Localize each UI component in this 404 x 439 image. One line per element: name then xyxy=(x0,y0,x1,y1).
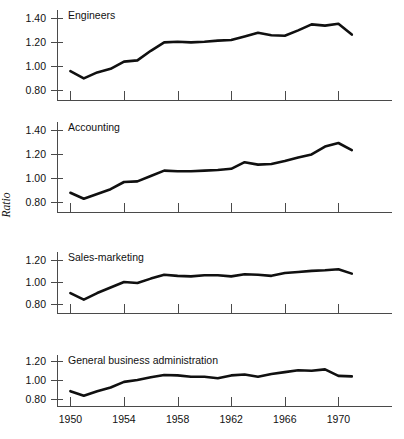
x-tick-label: 1970 xyxy=(327,413,351,425)
axis-lines xyxy=(58,10,393,101)
y-axis-title-ratio: Ratio xyxy=(0,192,12,218)
y-tick-label: 1.20 xyxy=(26,355,47,367)
panel-title-accounting: Accounting xyxy=(68,121,120,133)
y-tick-label: 0.80 xyxy=(26,84,47,96)
y-tick-label: 0.80 xyxy=(26,393,47,405)
y-tick-label: 1.20 xyxy=(26,254,47,266)
y-tick-label: 1.40 xyxy=(26,124,47,136)
y-tick-label: 1.00 xyxy=(26,374,47,386)
chart-figure: Ratio 0.801.001.201.40Engineers0.801.001… xyxy=(0,0,404,439)
panel-title-sales-marketing: Sales-marketing xyxy=(68,251,144,263)
y-tick-label: 1.20 xyxy=(26,148,47,160)
y-tick-label: 1.20 xyxy=(26,36,47,48)
panel-title-engineers: Engineers xyxy=(68,9,115,21)
panel-engineers: 0.801.001.201.40Engineers xyxy=(26,9,392,101)
y-tick-label: 0.80 xyxy=(26,196,47,208)
y-tick-label: 1.00 xyxy=(26,60,47,72)
data-series-engineers xyxy=(70,24,351,79)
y-tick-label: 0.80 xyxy=(26,298,47,310)
data-series-sales-marketing xyxy=(70,269,351,300)
x-tick-label: 1966 xyxy=(273,413,297,425)
data-series-accounting xyxy=(70,143,351,199)
x-tick-label: 1950 xyxy=(59,413,83,425)
panel-title-general-business-administration: General business administration xyxy=(68,354,218,366)
y-tick-label: 1.40 xyxy=(26,12,47,24)
axis-lines xyxy=(58,122,393,213)
x-tick-label: 1958 xyxy=(166,413,190,425)
data-series-general-business-administration xyxy=(70,369,351,395)
x-tick-label: 1954 xyxy=(112,413,136,425)
y-tick-label: 1.00 xyxy=(26,276,47,288)
y-tick-label: 1.00 xyxy=(26,172,47,184)
multi-panel-line-chart: Ratio 0.801.001.201.40Engineers0.801.001… xyxy=(0,0,404,439)
x-tick-label: 1962 xyxy=(220,413,244,425)
panel-accounting: 0.801.001.201.40Accounting xyxy=(26,121,392,213)
panel-general-business-administration: 0.801.001.20195019541958196219661970Gene… xyxy=(26,354,392,425)
panel-sales-marketing: 0.801.001.20Sales-marketing xyxy=(26,251,392,314)
